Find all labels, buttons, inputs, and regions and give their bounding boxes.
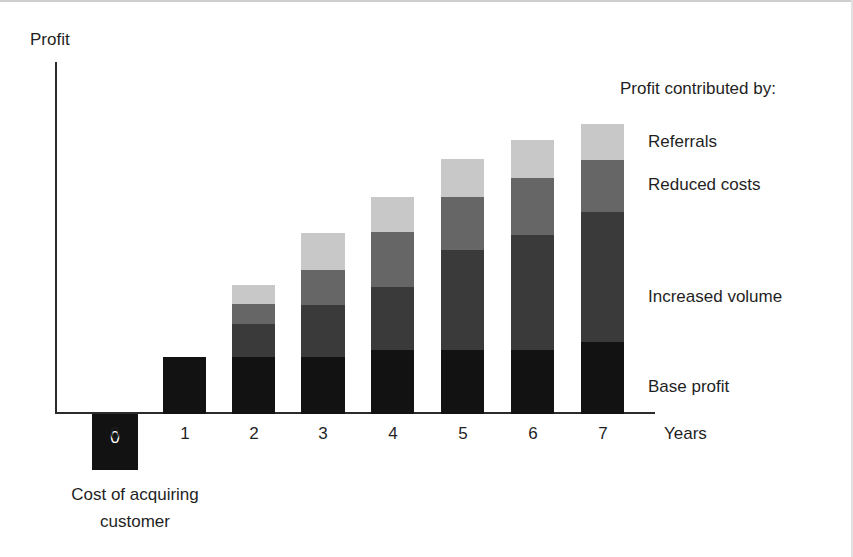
bar-segment-reduced-costs xyxy=(232,304,275,324)
x-tick-4: 4 xyxy=(371,424,415,444)
bar-segment-base-profit xyxy=(511,350,554,414)
bar-segment-increased-volume xyxy=(371,287,414,350)
bar-year-7 xyxy=(581,124,624,414)
chart-figure: Profit Years Profit contributed by: Refe… xyxy=(0,0,853,557)
bar-segment-increased-volume xyxy=(441,250,484,350)
x-tick-1: 1 xyxy=(163,424,207,444)
bar-year-3 xyxy=(301,233,345,414)
legend-item-base-profit: Base profit xyxy=(648,377,729,397)
bar-segment-referrals xyxy=(232,285,275,304)
caption-line-2: customer xyxy=(100,512,170,531)
bar-segment-reduced-costs xyxy=(371,232,414,287)
legend-item-referrals: Referrals xyxy=(648,132,717,152)
bar-segment-increased-volume xyxy=(301,305,345,357)
x-tick-7: 7 xyxy=(581,424,625,444)
bar-segment-referrals xyxy=(511,140,554,178)
cost-bar-caption: Cost of acquiring customer xyxy=(25,481,245,535)
bar-segment-base-profit xyxy=(232,357,275,414)
bar-segment-increased-volume xyxy=(581,212,624,342)
x-tick-5: 5 xyxy=(441,424,485,444)
x-tick-2: 2 xyxy=(232,424,276,444)
bar-segment-base-profit xyxy=(581,342,624,414)
x-tick-0: 0 xyxy=(92,424,138,444)
y-axis-title: Profit xyxy=(30,30,70,50)
bar-segment-increased-volume xyxy=(232,324,275,357)
bar-segment-referrals xyxy=(371,197,414,232)
bar-segment-referrals xyxy=(581,124,624,160)
bar-segment-referrals xyxy=(301,233,345,270)
bar-segment-increased-volume xyxy=(511,235,554,350)
bar-year-1 xyxy=(163,357,206,414)
bar-segment-base-profit xyxy=(371,350,414,414)
bar-year-4 xyxy=(371,197,414,414)
x-axis-title: Years xyxy=(664,424,707,444)
bar-segment-referrals xyxy=(441,159,484,197)
legend-item-increased-volume: Increased volume xyxy=(648,287,782,307)
x-tick-3: 3 xyxy=(301,424,345,444)
scan-edge-top xyxy=(0,0,853,2)
legend-item-reduced-costs: Reduced costs xyxy=(648,175,760,195)
x-axis-line xyxy=(55,412,655,414)
x-tick-6: 6 xyxy=(511,424,555,444)
bar-year-2 xyxy=(232,285,275,414)
bar-segment-reduced-costs xyxy=(441,197,484,250)
y-axis-line xyxy=(55,62,57,414)
bar-segment-base-profit xyxy=(301,357,345,414)
legend-title: Profit contributed by: xyxy=(620,79,776,99)
bar-year-6 xyxy=(511,140,554,414)
bar-year-5 xyxy=(441,159,484,414)
bar-segment-base-profit xyxy=(163,357,206,414)
bar-segment-reduced-costs xyxy=(301,270,345,305)
caption-line-1: Cost of acquiring xyxy=(71,485,199,504)
bar-segment-reduced-costs xyxy=(581,160,624,212)
bar-segment-reduced-costs xyxy=(511,178,554,235)
bar-segment-base-profit xyxy=(441,350,484,414)
